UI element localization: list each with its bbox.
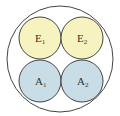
label-a1: A <box>35 75 43 87</box>
circle-e1: E1 <box>19 17 61 59</box>
circle-a2: A2 <box>61 60 103 102</box>
diagram: E1 E2 A1 A2 <box>0 0 120 116</box>
circle-a1: A1 <box>19 60 61 102</box>
label-a2: A <box>77 75 85 87</box>
circle-e2: E2 <box>61 17 103 59</box>
